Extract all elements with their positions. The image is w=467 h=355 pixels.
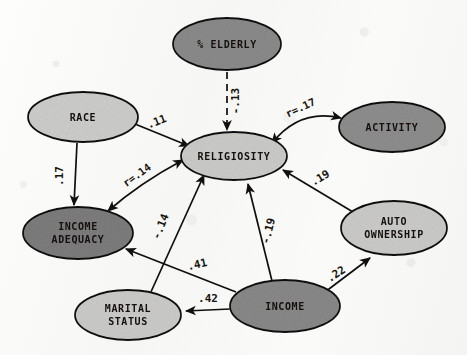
- node-shape-auto-ownership[interactable]: [341, 201, 447, 255]
- node-label-marital-status-line2: STATUS: [108, 316, 148, 327]
- node-shape-income-adequacy[interactable]: [23, 207, 133, 259]
- node-label-auto-ownership-line2: OWNERSHIP: [364, 229, 424, 240]
- edge-label-marital-religiosity: -.14: [150, 212, 172, 242]
- edge-label-race-religiosity: .11: [145, 112, 169, 131]
- edge-line-income-marital: [186, 309, 230, 311]
- edge-label-religiosity-activity: r=.17: [283, 95, 317, 119]
- node-marital-status[interactable]: MARITAL STATUS: [75, 290, 181, 340]
- edge-religiosity-activity: r=.17: [272, 95, 341, 143]
- edge-label-income-religiosity: -.19: [259, 217, 278, 246]
- edge-line-race-religiosity: [135, 124, 189, 146]
- edge-elderly-religiosity: -.13: [227, 72, 242, 130]
- edge-label-elderly-religiosity: -.13: [229, 88, 242, 115]
- edge-income-adequacy-religiosity: r=.14: [108, 160, 183, 211]
- edge-income-auto: .22: [324, 258, 370, 292]
- node-auto-ownership[interactable]: AUTO OWNERSHIP: [341, 201, 447, 255]
- edge-income-religiosity: -.19: [248, 184, 278, 281]
- node-label-income-adequacy-line1: INCOME: [58, 221, 98, 232]
- edge-label-race-income-adequacy: .17: [53, 166, 66, 186]
- node-label-income: INCOME: [265, 301, 305, 312]
- node-race[interactable]: RACE: [28, 92, 138, 142]
- node-shape-marital-status[interactable]: [75, 290, 181, 340]
- node-activity[interactable]: ACTIVITY: [339, 102, 445, 152]
- node-income-adequacy[interactable]: INCOME ADEQUACY: [23, 207, 133, 259]
- edge-label-income-adequacy-religiosity: r=.14: [120, 161, 153, 189]
- edge-label-income-auto: .22: [324, 263, 348, 285]
- edge-line-income-income-adequacy: [126, 249, 236, 292]
- node-label-race: RACE: [70, 112, 96, 123]
- node-label-income-adequacy-line2: ADEQUACY: [52, 234, 105, 245]
- edge-line-religiosity-activity: [272, 116, 341, 143]
- node-religiosity[interactable]: RELIGIOSITY: [181, 132, 287, 180]
- node-label-activity: ACTIVITY: [366, 122, 419, 133]
- node-elderly[interactable]: % ELDERLY: [173, 18, 281, 70]
- node-label-marital-status-line1: MARITAL: [105, 303, 151, 314]
- edge-income-income-adequacy: .41: [126, 249, 236, 292]
- node-label-religiosity: RELIGIOSITY: [198, 151, 271, 162]
- edge-auto-religiosity: .19: [283, 167, 353, 212]
- edge-line-race-income-adequacy: [74, 143, 77, 205]
- edge-label-income-marital: .42: [198, 292, 218, 305]
- edge-label-auto-religiosity: .19: [308, 167, 332, 188]
- edge-income-marital: .42: [186, 292, 230, 311]
- edge-label-income-income-adequacy: .41: [186, 256, 209, 273]
- node-income[interactable]: INCOME: [230, 280, 340, 332]
- node-label-elderly: % ELDERLY: [197, 39, 257, 50]
- path-diagram-canvas: -.13 .11 .17 r=.17 r=.14: [0, 0, 467, 355]
- edge-race-religiosity: .11: [135, 112, 189, 146]
- node-label-auto-ownership-line1: AUTO: [381, 216, 407, 227]
- edge-race-income-adequacy: .17: [53, 143, 77, 205]
- path-diagram-page: -.13 .11 .17 r=.17 r=.14: [0, 0, 467, 355]
